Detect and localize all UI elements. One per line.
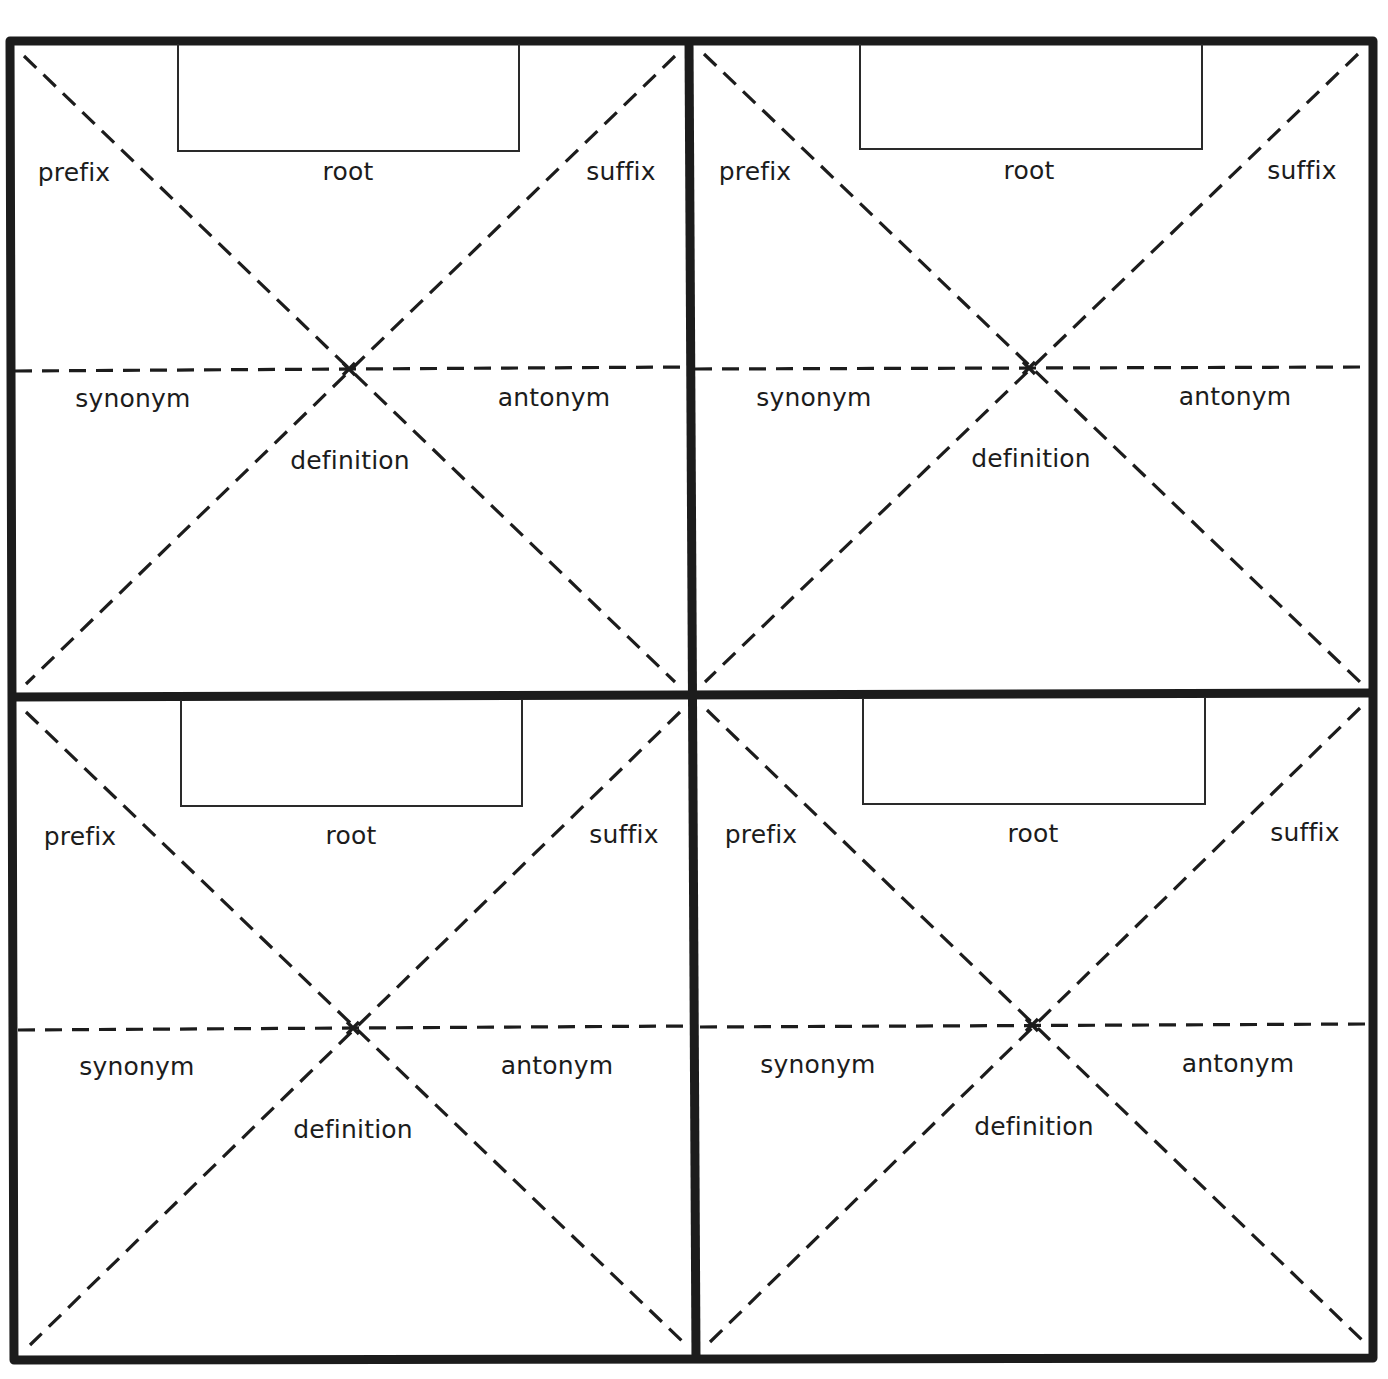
panel-br-synonym-label: synonym bbox=[760, 1052, 875, 1077]
panel-tl-synonym-label: synonym bbox=[75, 386, 190, 411]
panel-tl-suffix-label: suffix bbox=[586, 159, 655, 184]
panel-br-prefix-label: prefix bbox=[725, 822, 798, 847]
panel-tr-root-label: root bbox=[1004, 158, 1055, 183]
panel-tl-root-box[interactable] bbox=[177, 44, 520, 152]
panel-bl-root-box[interactable] bbox=[180, 700, 523, 807]
worksheet-lines bbox=[0, 0, 1388, 1379]
panel-bl-root-label: root bbox=[326, 823, 377, 848]
panel-bl-prefix-label: prefix bbox=[44, 824, 117, 849]
panel-br-suffix-label: suffix bbox=[1270, 820, 1339, 845]
worksheet: prefix root suffix synonym antonym defin… bbox=[0, 0, 1388, 1379]
panel-br-root-label: root bbox=[1008, 821, 1059, 846]
panel-tl-prefix-label: prefix bbox=[38, 160, 111, 185]
panel-tr-definition-label: definition bbox=[971, 446, 1091, 471]
horizontal-divider bbox=[12, 693, 1373, 697]
panel-tl-antonym-label: antonym bbox=[498, 385, 611, 410]
panel-tr-prefix-label: prefix bbox=[719, 159, 792, 184]
panel-tl-definition-label: definition bbox=[290, 448, 410, 473]
panel-bl-antonym-label: antonym bbox=[501, 1053, 614, 1078]
panel-tr-suffix-label: suffix bbox=[1267, 158, 1336, 183]
panel-tr-synonym-label: synonym bbox=[756, 385, 871, 410]
panel-tl-root-label: root bbox=[323, 159, 374, 184]
panel-tr-antonym-label: antonym bbox=[1179, 384, 1292, 409]
panel-bl-synonym-label: synonym bbox=[79, 1054, 194, 1079]
panel-br-antonym-label: antonym bbox=[1182, 1051, 1295, 1076]
vertical-divider bbox=[689, 41, 696, 1359]
panel-bl-definition-label: definition bbox=[293, 1117, 413, 1142]
panel-br-definition-label: definition bbox=[974, 1114, 1094, 1139]
panel-tr-root-box[interactable] bbox=[859, 44, 1203, 150]
panel-br-root-box[interactable] bbox=[862, 698, 1206, 805]
panel-bl-suffix-label: suffix bbox=[589, 822, 658, 847]
